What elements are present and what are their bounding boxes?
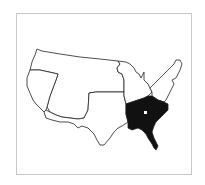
- region-northeast[interactable]: [150, 60, 182, 102]
- us-region-map: [0, 0, 205, 185]
- region-southeast[interactable]: [126, 96, 168, 150]
- location-marker: [144, 111, 147, 114]
